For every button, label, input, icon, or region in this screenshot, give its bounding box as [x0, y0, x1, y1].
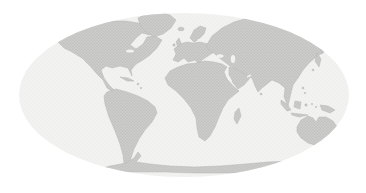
- sea-caspian-sea: [231, 55, 235, 63]
- sea-baltic-sea: [198, 39, 203, 41]
- island-caribbean-dot: [137, 83, 139, 85]
- lake-great-lakes: [126, 49, 134, 52]
- world-map: [0, 0, 366, 193]
- island-moluccas-dot: [315, 106, 316, 107]
- island-sri-lanka: [260, 93, 262, 95]
- island-philippines-dot: [302, 87, 304, 89]
- island-ireland: [173, 44, 175, 46]
- island-moluccas-dot: [311, 103, 312, 104]
- island-japan-dot: [312, 69, 314, 71]
- island-caribbean-dot: [140, 87, 142, 89]
- sea-black-sea: [217, 54, 224, 58]
- island-iceland: [178, 27, 184, 31]
- island-philippines-dot: [304, 92, 306, 94]
- map-canvas: [0, 0, 366, 193]
- island-sulawesi: [305, 104, 307, 106]
